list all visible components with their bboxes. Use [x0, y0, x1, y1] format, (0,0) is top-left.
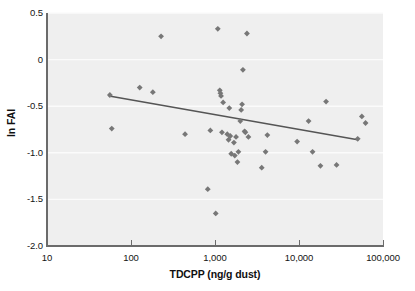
x-tick-label: 10,000	[269, 252, 329, 263]
x-tick-label: 100,000	[353, 252, 413, 263]
x-tick-label: 10	[17, 252, 77, 263]
x-tick-label: 1,000	[185, 252, 245, 263]
y-axis-title: ln FAI	[5, 83, 17, 163]
x-axis-title: TDCPP (ng/g dust)	[47, 268, 383, 280]
x-tick-mark	[299, 240, 300, 247]
x-tick-mark	[383, 240, 384, 247]
scatter-plot-figure: 0.50-0.5-1.0-1.5-2.0 101001,00010,000100…	[0, 0, 415, 291]
x-tick-mark	[215, 240, 216, 247]
x-axis-tick-labels: 101001,00010,000100,000	[0, 0, 415, 291]
x-tick-label: 100	[101, 252, 161, 263]
x-tick-mark	[131, 240, 132, 247]
x-tick-mark	[47, 240, 48, 247]
